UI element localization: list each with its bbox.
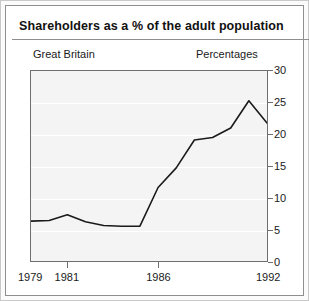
plot-area bbox=[30, 70, 268, 262]
x-axis-tick-label: 1979 bbox=[18, 272, 42, 283]
y-axis-tick-label: 10 bbox=[274, 193, 286, 204]
y-axis-tick-label: 5 bbox=[274, 225, 280, 236]
y-axis-tick bbox=[268, 70, 273, 71]
y-axis-tick-label: 30 bbox=[274, 65, 286, 76]
y-axis-tick bbox=[268, 198, 273, 199]
x-axis-tick bbox=[67, 262, 68, 268]
x-axis-tick-label: 1981 bbox=[55, 272, 79, 283]
units-label: Percentages bbox=[196, 48, 258, 60]
y-axis-tick bbox=[268, 166, 273, 167]
x-axis-tick bbox=[158, 262, 159, 268]
line-chart: Great Britain Percentages 051015202530 1… bbox=[0, 0, 309, 301]
y-axis-tick-label: 15 bbox=[274, 161, 286, 172]
x-axis-tick-label: 1992 bbox=[256, 272, 280, 283]
y-axis-tick-label: 0 bbox=[274, 257, 280, 268]
y-axis-tick bbox=[268, 134, 273, 135]
data-series-line bbox=[31, 71, 267, 261]
y-axis-tick bbox=[268, 102, 273, 103]
screenshot-root: Shareholders as a % of the adult populat… bbox=[0, 0, 309, 301]
y-axis-tick-label: 25 bbox=[274, 97, 286, 108]
y-axis-tick bbox=[268, 230, 273, 231]
x-axis-tick-label: 1986 bbox=[146, 272, 170, 283]
y-axis-tick-label: 20 bbox=[274, 129, 286, 140]
y-axis-tick bbox=[268, 262, 273, 263]
region-label: Great Britain bbox=[33, 48, 95, 60]
